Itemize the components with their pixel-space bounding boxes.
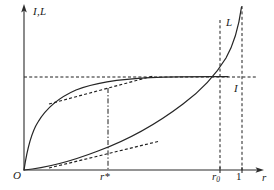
x-tick-label-r-zero-subscript: 0 (216, 175, 220, 184)
x-tick-label-r-star-text: r* (100, 170, 110, 182)
tangent-line-upper (49, 76, 153, 104)
plot-area (0, 0, 274, 190)
curve-L (24, 7, 242, 170)
tangent-line-lower (49, 141, 160, 168)
x-tick-label-one: 1 (236, 171, 242, 182)
origin-label: O (13, 170, 21, 181)
x-tick-label-r-zero: r0 (212, 171, 220, 184)
x-tick-label-r-star: r* (100, 171, 110, 182)
y-axis-label: I,L (33, 6, 46, 17)
curve-label-I: I (234, 83, 238, 94)
figure-canvas: I,L r O r* r0 1 L I (0, 0, 274, 190)
curve-I (24, 77, 228, 170)
x-axis-label: r (262, 172, 266, 183)
curve-label-L: L (226, 17, 232, 28)
